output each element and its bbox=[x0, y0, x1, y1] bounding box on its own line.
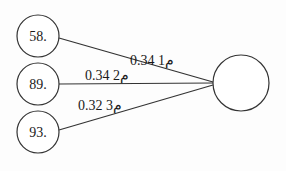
edge-2 bbox=[59, 83, 213, 84]
edge-label-3: 0.32 3م bbox=[78, 98, 122, 114]
input-node-2: 89. bbox=[17, 63, 59, 105]
output-node bbox=[213, 55, 269, 111]
node-label-3: 93. bbox=[29, 125, 47, 140]
node-label-1: 58. bbox=[29, 29, 47, 44]
edge-label-2: 0.34 2م bbox=[85, 68, 129, 84]
input-node-1: 58. bbox=[17, 15, 59, 57]
node-label-2: 89. bbox=[29, 77, 47, 92]
edge-label-1: 0.34 1م bbox=[130, 53, 174, 69]
path-diagram: 58. 89. 93. 0.34 1م 0.34 2م 0.32 3م bbox=[0, 0, 286, 171]
input-node-3: 93. bbox=[17, 111, 59, 153]
diagram-svg: 58. 89. 93. 0.34 1م 0.34 2م 0.32 3م bbox=[0, 0, 286, 171]
